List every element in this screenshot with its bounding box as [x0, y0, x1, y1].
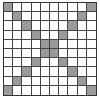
grid-cell [50, 31, 59, 40]
grid-cell [59, 3, 68, 12]
grid-cell [68, 77, 77, 86]
grid-cell-filled [4, 86, 13, 95]
grid-cell [78, 21, 87, 30]
grid-cell [87, 58, 96, 67]
grid-cell [13, 49, 22, 58]
grid-cell [87, 40, 96, 49]
grid-cell [50, 3, 59, 12]
grid-cell [41, 86, 50, 95]
grid-cell [41, 58, 50, 67]
grid-cell [59, 21, 68, 30]
grid-cell [41, 21, 50, 30]
grid-cell [59, 86, 68, 95]
grid-cell-filled [32, 58, 41, 67]
grid-cell-filled [41, 49, 50, 58]
grid-cell [13, 67, 22, 76]
grid-cell [22, 58, 31, 67]
grid-cell [13, 58, 22, 67]
grid-cell [78, 67, 87, 76]
grid-cell-filled [13, 77, 22, 86]
grid-cell [13, 3, 22, 12]
grid-cell [87, 77, 96, 86]
grid-cell [32, 3, 41, 12]
grid-cell-filled [4, 3, 13, 12]
grid-cell [4, 12, 13, 21]
grid-cell [87, 67, 96, 76]
grid-cell [78, 49, 87, 58]
grid-cell [22, 3, 31, 12]
grid-cell [22, 40, 31, 49]
grid-cell [68, 58, 77, 67]
grid-cell [41, 12, 50, 21]
grid-cell [50, 12, 59, 21]
grid-cell-filled [78, 12, 87, 21]
grid-cell [41, 77, 50, 86]
grid-cell [4, 58, 13, 67]
grid-cell [22, 86, 31, 95]
grid-cell-filled [68, 67, 77, 76]
grid-cell [87, 49, 96, 58]
grid-cell [32, 40, 41, 49]
grid-cell [68, 31, 77, 40]
grid-cell [32, 12, 41, 21]
grid-cell [59, 12, 68, 21]
grid-cell-filled [50, 40, 59, 49]
grid-cell [78, 31, 87, 40]
grid-cell-filled [22, 67, 31, 76]
grid-cell-filled [32, 31, 41, 40]
grid-cell [41, 67, 50, 76]
grid-cell [4, 31, 13, 40]
grid-cell [4, 21, 13, 30]
grid-cell-filled [22, 21, 31, 30]
grid-cell [13, 31, 22, 40]
grid-cell [4, 40, 13, 49]
grid-cell [68, 40, 77, 49]
grid-cell [32, 49, 41, 58]
grid-cell [59, 40, 68, 49]
grid-cell [78, 86, 87, 95]
grid-cell-filled [78, 77, 87, 86]
grid-cell [78, 40, 87, 49]
grid-cell [13, 40, 22, 49]
grid-cell [78, 58, 87, 67]
grid-cell-filled [41, 40, 50, 49]
grid-cell [32, 67, 41, 76]
grid-cell [68, 49, 77, 58]
grid-cell [78, 3, 87, 12]
grid-cell [41, 31, 50, 40]
grid-cell [68, 12, 77, 21]
grid-cell [68, 3, 77, 12]
grid-cell-filled [13, 12, 22, 21]
grid-cell [50, 77, 59, 86]
grid-cell [68, 86, 77, 95]
grid-cell [32, 77, 41, 86]
grid-cell [4, 49, 13, 58]
grid-cell-filled [50, 49, 59, 58]
grid-cell [50, 86, 59, 95]
grid-cell [50, 21, 59, 30]
grid-cell [22, 49, 31, 58]
grid-cell [22, 77, 31, 86]
grid-cell-filled [87, 3, 96, 12]
grid-cell [59, 49, 68, 58]
grid-cell [32, 86, 41, 95]
grid-cell [13, 86, 22, 95]
grid-cell [4, 67, 13, 76]
grid-cell [22, 12, 31, 21]
pixel-grid [3, 2, 97, 96]
grid-cell [87, 12, 96, 21]
grid-cell [50, 58, 59, 67]
grid-cell-filled [68, 21, 77, 30]
grid-cell [59, 67, 68, 76]
grid-cell [32, 21, 41, 30]
grid-cell [87, 21, 96, 30]
grid-cell [22, 31, 31, 40]
grid-cell [4, 77, 13, 86]
grid-cell-filled [59, 58, 68, 67]
grid-cell [87, 31, 96, 40]
grid-cell [41, 3, 50, 12]
grid-cell [59, 77, 68, 86]
grid-cell-filled [87, 86, 96, 95]
grid-cell-filled [59, 31, 68, 40]
grid-cell [13, 21, 22, 30]
